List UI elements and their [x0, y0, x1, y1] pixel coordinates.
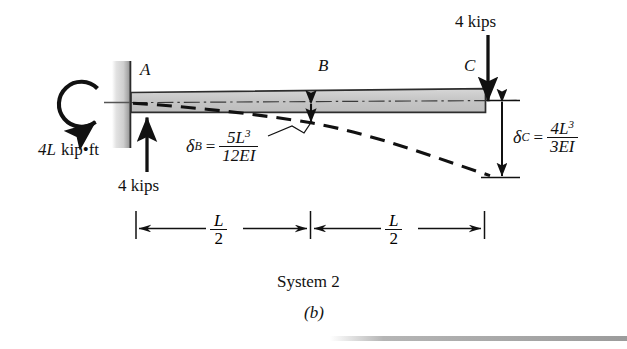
- point-label-a: A: [140, 60, 150, 80]
- delta-b-equation: δB = 5L3 12EI: [186, 128, 258, 165]
- point-label-c: C: [464, 56, 475, 76]
- scan-artifact-line: [330, 336, 627, 341]
- delta-b-denominator: 12EI: [219, 146, 258, 165]
- delta-c-denominator: 3EI: [547, 137, 578, 156]
- fixed-support-wall: [112, 61, 131, 148]
- span-label-left: L 2: [210, 212, 227, 248]
- delta-c-symbol: δ: [513, 127, 521, 148]
- span-right-denominator: 2: [385, 229, 402, 247]
- delta-b-equals: =: [202, 137, 220, 157]
- span-dimension-line: [136, 211, 485, 239]
- tip-load-label: 4 kips: [455, 12, 496, 32]
- point-label-b: B: [318, 56, 328, 76]
- delta-c-equation: δC = 4L3 3EI: [513, 119, 578, 156]
- span-left-numerator: L: [210, 212, 227, 229]
- span-label-right: L 2: [385, 212, 402, 248]
- delta-c-subscript: C: [521, 130, 529, 145]
- delta-b-numerator: 5L3: [219, 128, 258, 146]
- span-right-numerator: L: [385, 212, 402, 229]
- delta-c-fraction: 4L3 3EI: [547, 119, 578, 156]
- moment-load-label: 4Lkip•ft: [38, 140, 99, 160]
- delta-c-equals: =: [529, 128, 547, 148]
- applied-moment-arc-arrow: [59, 82, 98, 127]
- span-left-denominator: 2: [210, 229, 227, 247]
- support-reaction-label: 4 kips: [118, 176, 159, 196]
- figure-caption-sub: (b): [304, 303, 324, 323]
- figure-caption-main: System 2: [277, 272, 340, 292]
- delta-b-subscript: B: [194, 139, 201, 154]
- delta-c-numerator: 4L3: [547, 119, 578, 137]
- delta-b-symbol: δ: [186, 136, 194, 157]
- moment-units-text: kip•ft: [61, 140, 99, 159]
- delta-b-fraction: 5L3 12EI: [219, 128, 258, 165]
- moment-magnitude: 4L: [38, 140, 56, 159]
- beam-deflection-diagram: [0, 0, 627, 349]
